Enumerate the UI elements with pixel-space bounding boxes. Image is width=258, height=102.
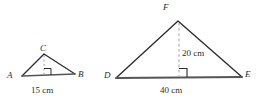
base-length-label-def: 40 cm [160, 86, 182, 95]
vertex-label-c: C [40, 44, 46, 53]
triangle-abc-right-angle-marker [44, 69, 51, 76]
vertex-label-f: F [163, 3, 169, 12]
vertex-label-d: D [104, 71, 111, 80]
vertex-label-e: E [245, 70, 251, 79]
triangle-abc-sides [22, 54, 75, 76]
height-length-label-def: 20 cm [182, 49, 204, 58]
vertex-label-b: B [78, 70, 84, 79]
triangle-def-right-angle-marker [179, 69, 187, 78]
triangle-def [116, 21, 242, 78]
vertex-label-a: A [7, 71, 13, 80]
triangle-def-base [116, 77, 242, 78]
triangle-abc [22, 54, 75, 76]
base-length-label-abc: 15 cm [31, 86, 53, 95]
triangle-abc-base [22, 74, 75, 76]
geometry-figure: A B C D E F 15 cm 20 cm 40 cm [0, 0, 258, 102]
